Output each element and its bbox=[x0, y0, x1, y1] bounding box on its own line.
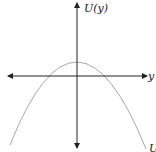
y-axis-label: U(y) bbox=[84, 2, 108, 15]
parabola-curve bbox=[10, 62, 146, 149]
x-axis-label: y bbox=[147, 70, 155, 83]
diagram-canvas: U(y) y U bbox=[0, 0, 156, 152]
curve-label: U bbox=[149, 142, 156, 152]
